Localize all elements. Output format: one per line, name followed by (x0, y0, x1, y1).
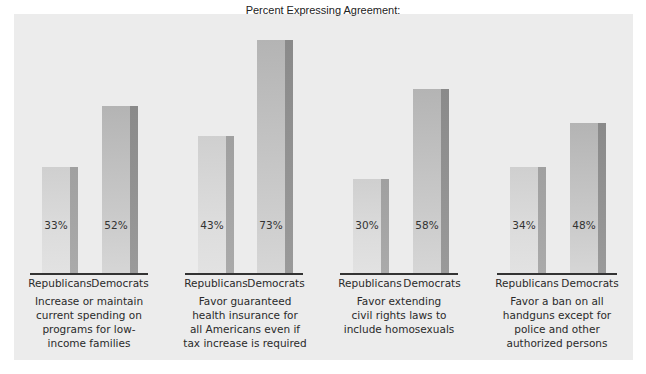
desc-line: tax increase is required (170, 336, 320, 350)
desc-line: police and other (482, 322, 632, 336)
value-label: 73% (257, 219, 285, 231)
category-label: Republicans (492, 277, 562, 289)
desc-line: current spending on (14, 308, 164, 322)
bar-side (130, 106, 138, 273)
value-label: 34% (510, 219, 538, 231)
value-label: 43% (198, 219, 226, 231)
question-description: Favor a ban on all handguns except for p… (482, 294, 632, 350)
bar-democrats-1 (102, 106, 138, 273)
bar-democrats-2 (257, 40, 293, 273)
bar-side (226, 136, 234, 273)
desc-line: health insurance for (170, 308, 320, 322)
category-label: Democrats (397, 277, 467, 289)
desc-line: authorized persons (482, 336, 632, 350)
bar-side (598, 123, 606, 273)
category-label: Democrats (241, 277, 311, 289)
bar-front (413, 89, 441, 273)
axis-line (185, 273, 303, 275)
axis-line (340, 273, 458, 275)
desc-line: Favor guaranteed (170, 294, 320, 308)
bar-side (381, 179, 389, 273)
desc-line: income families (14, 336, 164, 350)
bar-side (538, 167, 546, 273)
bar-side (285, 40, 293, 273)
desc-line: all Americans even if (170, 322, 320, 336)
category-label: Democrats (555, 277, 625, 289)
category-label: Democrats (85, 277, 155, 289)
bar-republicans-2 (198, 136, 234, 273)
bar-front (570, 123, 598, 273)
question-description: Favor extending civil rights laws to inc… (324, 294, 474, 336)
question-description: Increase or maintain current spending on… (14, 294, 164, 350)
axis-line (497, 273, 617, 275)
bar-front (257, 40, 285, 273)
value-label: 52% (102, 219, 130, 231)
chart-title: Percent Expressing Agreement: (0, 4, 646, 16)
value-label: 58% (413, 219, 441, 231)
bar-side (441, 89, 449, 273)
desc-line: programs for low- (14, 322, 164, 336)
bar-democrats-4 (570, 123, 606, 273)
category-label: Republicans (335, 277, 405, 289)
desc-line: civil rights laws to (324, 308, 474, 322)
value-label: 48% (570, 219, 598, 231)
bar-front (198, 136, 226, 273)
question-description: Favor guaranteed health insurance for al… (170, 294, 320, 350)
bar-side (70, 167, 78, 273)
bar-democrats-3 (413, 89, 449, 273)
desc-line: Favor a ban on all (482, 294, 632, 308)
bar-front (102, 106, 130, 273)
desc-line: include homosexuals (324, 322, 474, 336)
axis-line (30, 273, 148, 275)
desc-line: handguns except for (482, 308, 632, 322)
value-label: 30% (353, 219, 381, 231)
desc-line: Increase or maintain (14, 294, 164, 308)
desc-line: Favor extending (324, 294, 474, 308)
value-label: 33% (42, 219, 70, 231)
